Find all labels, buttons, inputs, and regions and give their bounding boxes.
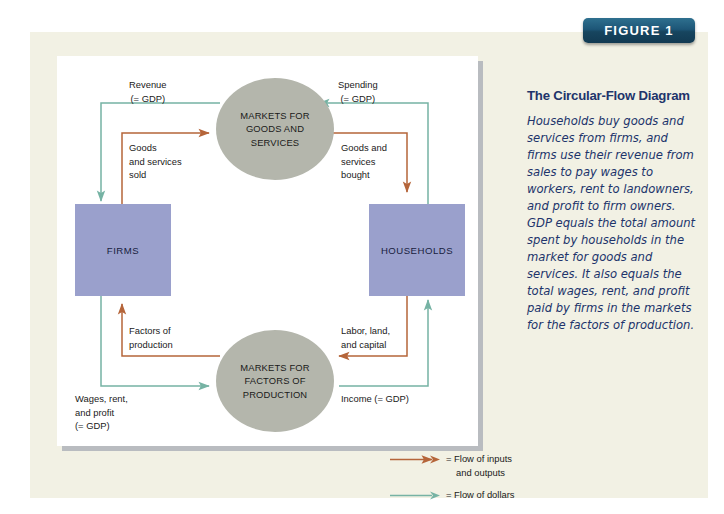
label-line: production <box>129 338 173 352</box>
node-label-line: MARKETS FOR <box>240 361 309 374</box>
label-income: Income (= GDP) <box>341 392 409 406</box>
node-households-label: HOUSEHOLDS <box>381 245 453 256</box>
label-goods-and-services-bought: Goods and services bought <box>341 141 387 182</box>
legend-item-flow-of-dollars: = Flow of dollars <box>390 488 530 504</box>
label-line: sold <box>129 168 182 182</box>
label-wages-rent-and-profit: Wages, rent, and profit (= GDP) <box>75 392 128 433</box>
arrow-right-teal-icon <box>390 490 442 502</box>
label-line: Goods and <box>341 141 387 155</box>
label-line: Revenue <box>129 78 167 92</box>
label-line: and services <box>129 155 182 169</box>
label-line: Wages, rent, <box>75 392 128 406</box>
label-line: Goods <box>129 141 182 155</box>
node-firms-label: FIRMS <box>107 245 139 256</box>
label-line: and capital <box>341 338 390 352</box>
label-line: Factors of <box>129 324 173 338</box>
label-line: (= GDP) <box>129 92 167 106</box>
legend-label: = Flow of inputs <box>446 452 512 466</box>
legend-item-flow-of-inputs: = Flow of inputs and outputs <box>390 452 530 482</box>
legend: = Flow of inputs and outputs = Flow of d… <box>390 452 530 505</box>
figure-number-label: FIGURE 1 <box>604 23 674 38</box>
label-goods-and-services-sold: Goods and services sold <box>129 141 182 182</box>
label-factors-of-production: Factors of production <box>129 324 173 351</box>
node-label-line: PRODUCTION <box>240 388 309 401</box>
node-label-line: MARKETS FOR <box>240 109 309 122</box>
label-line: (= GDP) <box>338 92 378 106</box>
arrow-right-orange-icon <box>390 454 442 466</box>
node-households: HOUSEHOLDS <box>369 204 465 296</box>
label-line: Spending <box>338 78 378 92</box>
node-label-line: SERVICES <box>240 136 309 149</box>
label-labor-land-and-capital: Labor, land, and capital <box>341 324 390 351</box>
label-line: and profit <box>75 406 128 420</box>
label-spending: Spending (= GDP) <box>338 78 378 105</box>
caption-block: The Circular-Flow Diagram Households buy… <box>527 88 699 334</box>
diagram-card: MARKETS FOR GOODS AND SERVICES MARKETS F… <box>57 56 478 446</box>
label-line: Income (= GDP) <box>341 392 409 406</box>
legend-label-continued: and outputs <box>456 466 505 480</box>
caption-body: Households buy goods and services from f… <box>527 113 699 334</box>
node-label-line: FACTORS OF <box>240 374 309 387</box>
figure-number-badge: FIGURE 1 <box>583 18 695 43</box>
label-line: services <box>341 155 387 169</box>
node-firms: FIRMS <box>75 204 171 296</box>
caption-title: The Circular-Flow Diagram <box>527 88 699 104</box>
legend-label: = Flow of dollars <box>446 488 515 502</box>
node-markets-for-factors-of-production: MARKETS FOR FACTORS OF PRODUCTION <box>216 330 334 432</box>
label-line: Labor, land, <box>341 324 390 338</box>
node-label-line: GOODS AND <box>240 122 309 135</box>
label-line: (= GDP) <box>75 419 128 433</box>
label-revenue: Revenue (= GDP) <box>129 78 167 105</box>
label-line: bought <box>341 168 387 182</box>
figure-page: FIGURE 1 <box>0 0 724 514</box>
node-markets-for-goods-and-services: MARKETS FOR GOODS AND SERVICES <box>216 78 334 180</box>
